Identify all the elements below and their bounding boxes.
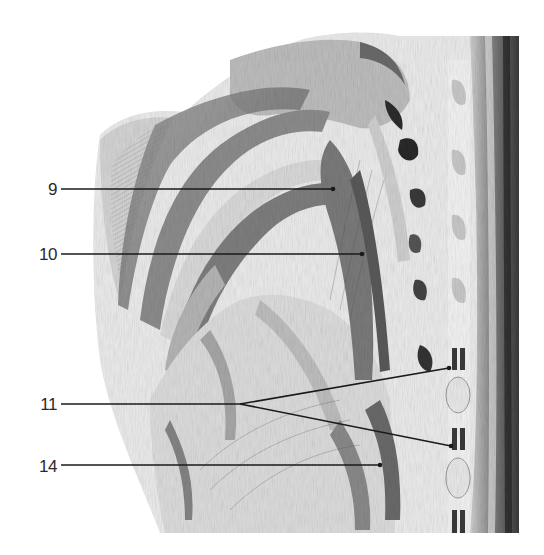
callout-label-11: 11: [27, 396, 57, 413]
callout-dot-10: [360, 252, 365, 257]
anatomy-figure: 9 10 11 14: [0, 0, 544, 555]
anatomy-illustration: [0, 0, 544, 555]
callout-label-9: 9: [27, 181, 57, 198]
callout-dot-9: [331, 187, 336, 192]
callout-label-14: 14: [27, 458, 57, 475]
callout-dot-11a: [447, 366, 452, 371]
callout-dot-14: [378, 463, 383, 468]
callout-label-10: 10: [27, 246, 57, 263]
callout-dot-11b: [449, 444, 454, 449]
drawing-body: [93, 33, 519, 533]
